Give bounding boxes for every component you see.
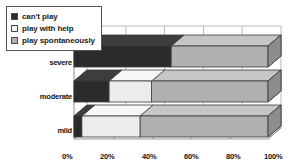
legend-item-play-spontaneously: play spontaneously	[11, 35, 97, 46]
legend-label-play-with-help: play with help	[22, 24, 74, 33]
legend-swatch-play-with-help	[11, 25, 18, 32]
legend-swatch-play-spontaneously	[11, 37, 18, 44]
x-axis-tick-3: 60%	[184, 152, 198, 161]
legend-item-play-with-help: play with help	[11, 23, 97, 34]
y-axis-label-severe: severe	[28, 58, 72, 67]
bar-segment-moderate-play-spontaneously	[152, 70, 281, 102]
x-axis-tick-2: 40%	[142, 152, 156, 161]
legend-label-play-spontaneously: play spontaneously	[22, 36, 95, 45]
legend-swatch-cant-play	[11, 13, 18, 20]
x-axis-tick-0: 0%	[62, 152, 72, 161]
bar-segment-mild-play-spontaneously	[140, 105, 281, 137]
legend-label-cant-play: can't play	[22, 12, 58, 21]
x-axis-tick-4: 80%	[226, 152, 240, 161]
legend-item-cant-play: can't play	[11, 11, 97, 22]
y-axis-label-moderate: moderate	[20, 92, 72, 101]
x-axis-tick-5: 100%	[264, 152, 282, 161]
y-axis-label-mild: mild	[32, 126, 72, 135]
chart-root: can't play play with help play spontaneo…	[0, 0, 290, 166]
bar-segment-severe-play-spontaneously	[171, 35, 281, 67]
x-axis-tick-1: 20%	[100, 152, 114, 161]
chart-legend: can't play play with help play spontaneo…	[6, 6, 102, 51]
